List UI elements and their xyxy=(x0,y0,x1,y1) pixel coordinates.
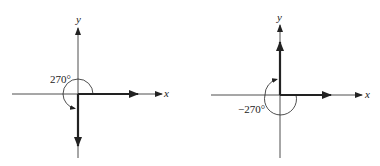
angle-diagrams: y x 270° y x −270° xyxy=(0,0,380,166)
y-axis-label: y xyxy=(276,11,282,23)
angle-label: −270° xyxy=(238,103,265,115)
x-axis-label: x xyxy=(163,87,169,99)
y-axis-label: y xyxy=(75,13,81,25)
angle-label: 270° xyxy=(50,73,71,85)
diagram-positive-270: y x 270° xyxy=(12,13,169,158)
diagram-negative-270: y x −270° xyxy=(211,11,370,158)
x-axis-label: x xyxy=(364,88,370,100)
